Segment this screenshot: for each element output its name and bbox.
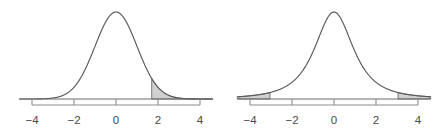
x-tick-label-2: 2	[155, 114, 161, 126]
x-tick-label-neg4: −4	[243, 114, 257, 126]
normal-curve-canvas: −4−2024	[0, 0, 217, 135]
tick-label-group: −4−2024	[243, 114, 421, 126]
x-tick-label-2: 2	[373, 114, 379, 126]
x-tick-label-0: 0	[331, 114, 337, 126]
density-curve	[19, 12, 212, 99]
axis-group	[32, 99, 200, 105]
curve-group	[19, 12, 212, 99]
density-curve	[237, 12, 430, 97]
axis-group	[250, 99, 418, 105]
x-tick-label-4: 4	[415, 114, 422, 126]
x-tick-label-0: 0	[113, 114, 119, 126]
x-tick-label-4: 4	[197, 114, 204, 126]
x-tick-label-neg2: −2	[285, 114, 298, 126]
shaded-tail-right-tail	[152, 79, 213, 100]
normal-distribution-plot: −4−2024	[0, 0, 217, 135]
t-distribution-plot: −4−2024	[218, 0, 435, 135]
tick-label-group: −4−2024	[25, 114, 203, 126]
x-tick-label-neg2: −2	[67, 114, 80, 126]
x-tick-label-neg4: −4	[25, 114, 39, 126]
distribution-figure: −4−2024 −4−2024	[0, 0, 435, 135]
curve-group	[237, 12, 430, 97]
shaded-area-group	[152, 79, 213, 100]
t-curve-canvas: −4−2024	[218, 0, 435, 135]
